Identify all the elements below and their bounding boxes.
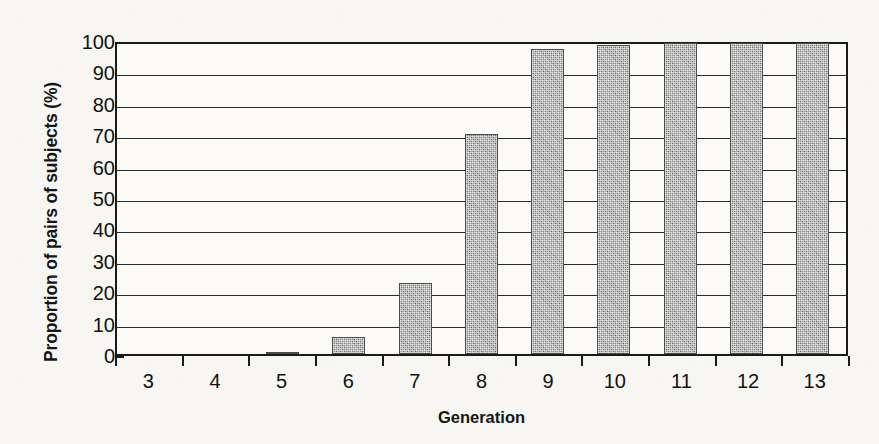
y-tick-label: 10 [69, 315, 115, 335]
bar-slot [183, 44, 249, 354]
bar [730, 43, 763, 354]
x-tick-mark [715, 356, 717, 366]
y-tick-label: 30 [69, 252, 115, 272]
x-tick-label: 5 [252, 370, 312, 393]
x-tick-mark [648, 356, 650, 366]
x-tick-label: 7 [385, 370, 445, 393]
x-tick-label: 12 [718, 370, 778, 393]
x-tick-mark [182, 356, 184, 366]
x-tick-mark [781, 356, 783, 366]
x-tick-label: 6 [318, 370, 378, 393]
bar-series [117, 44, 846, 354]
bar [664, 43, 697, 354]
bar [399, 283, 432, 354]
bar-slot [250, 44, 316, 354]
x-tick-mark [248, 356, 250, 366]
y-tick-label: 90 [69, 63, 115, 83]
y-axis-ticks: 0102030405060708090100 [60, 42, 115, 356]
bar-slot [316, 44, 382, 354]
bar-slot [780, 44, 846, 354]
bar [796, 43, 829, 354]
x-tick-mark [581, 356, 583, 366]
x-tick-mark [448, 356, 450, 366]
bar-slot [448, 44, 514, 354]
bar [332, 337, 365, 354]
x-tick-label: 11 [651, 370, 711, 393]
x-tick-mark [515, 356, 517, 366]
y-tick-label: 0 [69, 346, 115, 366]
bar-slot [713, 44, 779, 354]
y-tick-label: 70 [69, 126, 115, 146]
x-tick-mark [382, 356, 384, 366]
plot-area [115, 42, 848, 356]
bar [266, 352, 299, 355]
y-tick-label: 50 [69, 189, 115, 209]
x-tick-label: 3 [118, 370, 178, 393]
bar-slot [581, 44, 647, 354]
bar-slot [515, 44, 581, 354]
y-tick-label: 40 [69, 220, 115, 240]
x-tick-mark [115, 356, 117, 366]
y-tick-label: 20 [69, 283, 115, 303]
x-tick-label: 9 [518, 370, 578, 393]
x-tick-label: 10 [585, 370, 645, 393]
bar [597, 45, 630, 354]
x-tick-mark [848, 356, 850, 366]
x-tick-mark [315, 356, 317, 366]
x-axis-ticks: 345678910111213 [115, 356, 848, 402]
x-tick-label: 4 [185, 370, 245, 393]
x-axis-title: Generation [115, 408, 848, 427]
y-tick-label: 80 [69, 95, 115, 115]
bar [465, 134, 498, 354]
bar-chart-figure: Proportion of pairs of subjects (%) 0102… [0, 0, 879, 444]
bar-slot [647, 44, 713, 354]
bar [531, 49, 564, 354]
bar-slot [117, 44, 183, 354]
y-tick-label: 60 [69, 158, 115, 178]
bar-slot [382, 44, 448, 354]
y-tick-label: 100 [69, 32, 115, 52]
x-tick-label: 8 [452, 370, 512, 393]
x-tick-label: 13 [785, 370, 845, 393]
